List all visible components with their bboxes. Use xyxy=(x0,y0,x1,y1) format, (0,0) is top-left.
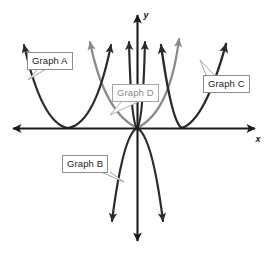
y-axis-label: y xyxy=(142,10,149,20)
leader-line-graph-c xyxy=(200,60,214,75)
label-graph-a[interactable]: Graph A xyxy=(27,52,73,70)
plot-canvas: x y xyxy=(0,0,270,253)
leader-line-graph-b xyxy=(101,172,124,182)
label-graph-b[interactable]: Graph B xyxy=(62,155,108,173)
parabola-figure: x y Graph A Graph D Graph C Graph B xyxy=(0,0,270,253)
label-graph-d[interactable]: Graph D xyxy=(112,84,159,102)
x-axis-label: x xyxy=(254,134,261,144)
label-graph-c[interactable]: Graph C xyxy=(203,75,250,93)
